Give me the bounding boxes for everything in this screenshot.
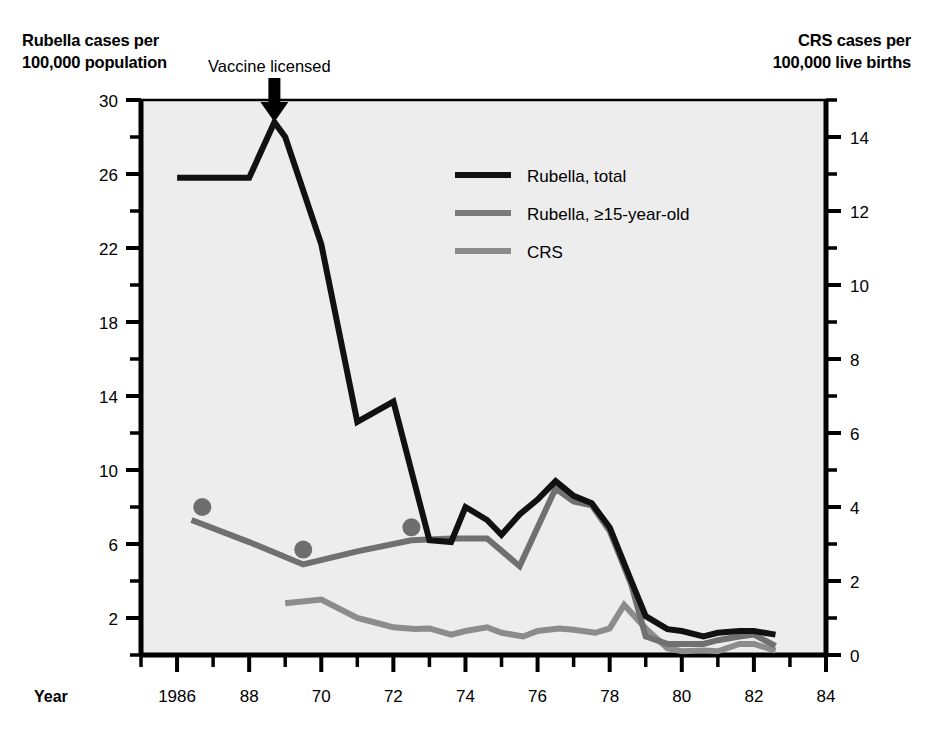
x-axis-tick-label: 80	[672, 687, 691, 706]
x-axis-tick-label: 82	[744, 687, 763, 706]
y2-axis-tick-label: 12	[850, 203, 869, 222]
y-axis-tick-label: 14	[99, 388, 118, 407]
y-axis-tick-label: 2	[109, 610, 118, 629]
data-point-marker	[402, 518, 420, 536]
y-axis-tick-label: 30	[99, 92, 118, 111]
x-axis-tick-label: 88	[240, 687, 259, 706]
x-axis-tick-label: 84	[817, 687, 836, 706]
y-axis-tick-label: 22	[99, 240, 118, 259]
data-point-marker	[294, 541, 312, 559]
y2-axis-tick-label: 4	[850, 499, 859, 518]
y2-axis-tick-label: 10	[850, 277, 869, 296]
left-axis-title-line1: Rubella cases per	[22, 31, 160, 49]
legend-label: CRS	[527, 243, 563, 262]
y-axis-tick-label: 6	[109, 536, 118, 555]
rubella-crs-chart: Rubella cases per100,000 populationCRS c…	[0, 0, 933, 734]
y2-axis-tick-label: 14	[850, 129, 869, 148]
x-axis-tick-label: 70	[312, 687, 331, 706]
y-axis-tick-label: 26	[99, 166, 118, 185]
y-axis-tick-label: 18	[99, 314, 118, 333]
y2-axis-tick-label: 8	[850, 351, 859, 370]
x-axis-name-label: Year	[34, 688, 68, 705]
y-axis-tick-label: 10	[99, 462, 118, 481]
right-axis-title-line1: CRS cases per	[798, 31, 912, 49]
x-axis-tick-label: 76	[528, 687, 547, 706]
y2-axis-tick-label: 6	[850, 425, 859, 444]
x-axis-tick-label: 74	[456, 687, 475, 706]
legend-label: Rubella, ≥15-year-old	[527, 205, 689, 224]
chart-svg: Rubella cases per100,000 populationCRS c…	[0, 0, 933, 734]
x-axis-tick-label: 78	[600, 687, 619, 706]
plot-area-background	[141, 100, 826, 655]
y2-axis-tick-label: 2	[850, 573, 859, 592]
left-axis-title-line2: 100,000 population	[22, 53, 167, 71]
legend-label: Rubella, total	[527, 167, 626, 186]
data-point-marker	[193, 498, 211, 516]
right-axis-title-line2: 100,000 live births	[773, 53, 911, 71]
vaccine-licensed-label: Vaccine licensed	[208, 57, 331, 75]
x-axis-tick-label: 1986	[158, 687, 196, 706]
y2-axis-tick-label: 0	[850, 647, 859, 666]
x-axis-tick-label: 72	[384, 687, 403, 706]
